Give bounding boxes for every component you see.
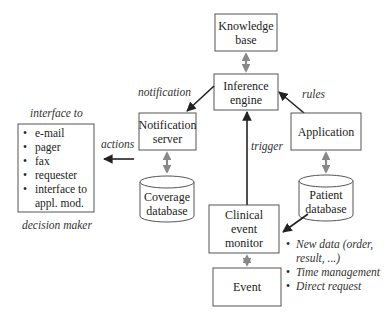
inference-engine-node: Inference engine — [214, 74, 278, 110]
event-type-new-data-cont: result, ...) — [296, 252, 340, 265]
patient-database-label-1: Patient — [309, 188, 343, 202]
notification-label: notification — [138, 86, 191, 99]
clinical-event-monitor-node: Clinical event monitor — [209, 205, 279, 253]
notification-arrow — [187, 86, 214, 111]
bullet: • — [286, 280, 290, 292]
patient-db-to-monitor-arrow — [283, 214, 308, 232]
event-types-list: • New data (order, result, ...) • Time m… — [286, 238, 381, 293]
bullet: • — [286, 238, 290, 250]
event-type-time-management: Time management — [296, 266, 381, 279]
interface-item-interface-to: interface to — [35, 183, 87, 195]
coverage-database-node: Coverage database — [140, 176, 194, 222]
bullet: • — [286, 266, 290, 278]
bullet: • — [23, 127, 27, 139]
application-node: Application — [291, 113, 361, 150]
bullet: • — [23, 183, 27, 195]
coverage-database-label-1: Coverage — [144, 190, 190, 204]
interface-item-pager: pager — [35, 141, 61, 154]
interface-item-appl-mod: appl. mod. — [35, 197, 84, 210]
interface-to-label: interface to — [30, 107, 83, 120]
rules-label: rules — [302, 88, 326, 100]
event-label: Event — [233, 280, 262, 294]
patient-database-label-2: database — [305, 202, 346, 216]
interface-box: • e-mail • pager • fax • requester • int… — [18, 124, 94, 212]
inference-engine-label-2: engine — [230, 93, 262, 107]
notification-server-label-2: server — [153, 132, 182, 146]
cem-label-3: monitor — [225, 236, 263, 250]
coverage-database-label-2: database — [146, 204, 187, 218]
rules-arrow — [279, 92, 304, 113]
bullet: • — [23, 155, 27, 167]
notification-server-label-1: Notification — [139, 118, 197, 132]
knowledge-base-label-2: base — [235, 33, 256, 47]
clinical-decision-support-diagram: Knowledge base Inference engine notifica… — [0, 0, 388, 315]
notification-server-node: Notification server — [139, 113, 197, 150]
trigger-label: trigger — [251, 140, 283, 153]
event-node: Event — [213, 268, 281, 306]
interface-item-email: e-mail — [35, 127, 64, 139]
event-type-direct-request: Direct request — [295, 280, 362, 293]
interface-item-fax: fax — [35, 155, 50, 167]
knowledge-base-node: Knowledge base — [215, 14, 277, 51]
inference-engine-label-1: Inference — [223, 79, 268, 93]
actions-label: actions — [101, 138, 135, 150]
cem-label-1: Clinical — [225, 208, 264, 222]
bullet: • — [23, 141, 27, 153]
event-type-new-data: New data (order, — [295, 238, 373, 251]
knowledge-base-label-1: Knowledge — [218, 19, 273, 33]
decision-maker-label: decision maker — [22, 219, 92, 231]
bullet: • — [23, 169, 27, 181]
interface-item-requester: requester — [35, 169, 77, 182]
cem-label-2: event — [231, 222, 258, 236]
application-label: Application — [298, 125, 355, 139]
